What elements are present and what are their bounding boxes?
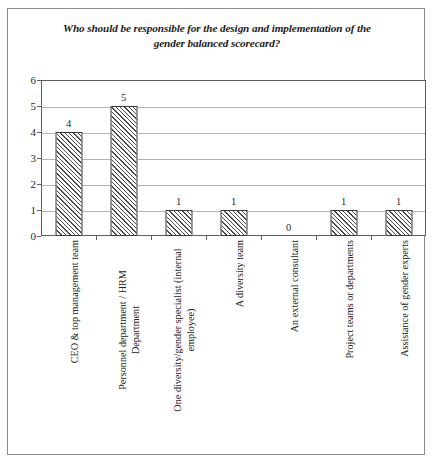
x-axis-label-line: Personnel department / HRM	[117, 270, 128, 390]
bars-layer: 4511011	[41, 80, 426, 236]
x-axis-label-line: employee)	[184, 240, 197, 420]
bar-value-label: 1	[231, 196, 236, 207]
x-axis-label-line: An external consultant	[289, 240, 300, 332]
y-tick-label: 3	[31, 152, 37, 164]
x-axis-label: An external consultant	[289, 240, 302, 332]
bar-slot: 1	[316, 80, 371, 236]
y-tick-label: 5	[31, 100, 37, 112]
bar-slot: 5	[96, 80, 151, 236]
x-axis-label: A diversity team	[234, 240, 247, 307]
x-axis-label-line: A diversity team	[234, 240, 245, 307]
chart-title: Who should be responsible for the design…	[32, 21, 402, 51]
bar-slot: 4	[41, 80, 96, 236]
bar[interactable]	[55, 132, 82, 236]
x-axis-label-line: CEO & top management team	[69, 240, 80, 363]
x-label-slot: Assistance of gender experts	[371, 240, 426, 430]
x-axis-labels: CEO & top management teamPersonnel depar…	[41, 240, 426, 430]
bar-value-label: 5	[121, 92, 126, 103]
chart-title-line-2: gender balanced scorecard?	[154, 37, 281, 49]
x-axis-label: One diversity/gender specialist (interna…	[172, 240, 197, 420]
y-tick-label: 0	[31, 230, 37, 242]
x-label-slot: Personnel department / HRMDepartment	[96, 240, 151, 430]
x-label-slot: Project teams or departments	[316, 240, 371, 430]
y-tick-label: 4	[31, 126, 37, 138]
x-axis-label-line: One diversity/gender specialist (interna…	[172, 248, 183, 411]
bar-slot: 1	[371, 80, 426, 236]
x-axis-label-line: Assistance of gender experts	[399, 240, 410, 357]
bar-value-label: 1	[396, 196, 401, 207]
bar-value-label: 4	[66, 118, 71, 129]
bar-slot: 1	[206, 80, 261, 236]
chart-title-line-1: Who should be responsible for the design…	[63, 22, 371, 34]
bar-value-label: 1	[341, 196, 346, 207]
x-axis-label-line: Project teams or departments	[344, 240, 355, 359]
bar[interactable]	[385, 210, 412, 236]
x-label-slot: CEO & top management team	[41, 240, 96, 430]
x-label-slot: An external consultant	[261, 240, 316, 430]
bar-value-label: 0	[286, 222, 291, 233]
y-tick-label: 2	[31, 178, 37, 190]
bar[interactable]	[330, 210, 357, 236]
bar-slot: 0	[261, 80, 316, 236]
bar-value-label: 1	[176, 196, 181, 207]
bar[interactable]	[110, 106, 137, 236]
y-tick-label: 6	[31, 74, 37, 86]
x-axis-label: Assistance of gender experts	[399, 240, 412, 357]
x-label-slot: A diversity team	[206, 240, 261, 430]
y-tick-label: 1	[31, 204, 37, 216]
bar[interactable]	[165, 210, 192, 236]
x-label-slot: One diversity/gender specialist (interna…	[151, 240, 206, 430]
bar-slot: 1	[151, 80, 206, 236]
x-axis-label: CEO & top management team	[69, 240, 82, 363]
bar[interactable]	[220, 210, 247, 236]
figure-frame: Who should be responsible for the design…	[7, 8, 425, 455]
x-axis-label-line: Department	[129, 240, 142, 420]
x-axis-label: Project teams or departments	[344, 240, 357, 359]
x-axis-label: Personnel department / HRMDepartment	[117, 240, 142, 420]
